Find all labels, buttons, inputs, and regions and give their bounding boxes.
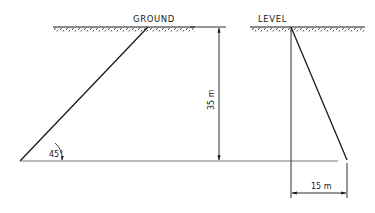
ground-label: GROUND [133,14,175,24]
ground-surface-right [250,27,365,32]
steep-slope-line [291,27,347,160]
level-label: LEVEL [258,14,287,24]
ground-level-diagram: GROUND LEVEL 45° 35 m 15 m [0,0,375,213]
depth-label: 35 m [207,89,216,110]
offset-label: 15 m [311,182,332,191]
slope-line-45deg [20,27,148,161]
ground-surface-left [53,27,195,32]
angle-label: 45° [49,150,63,159]
